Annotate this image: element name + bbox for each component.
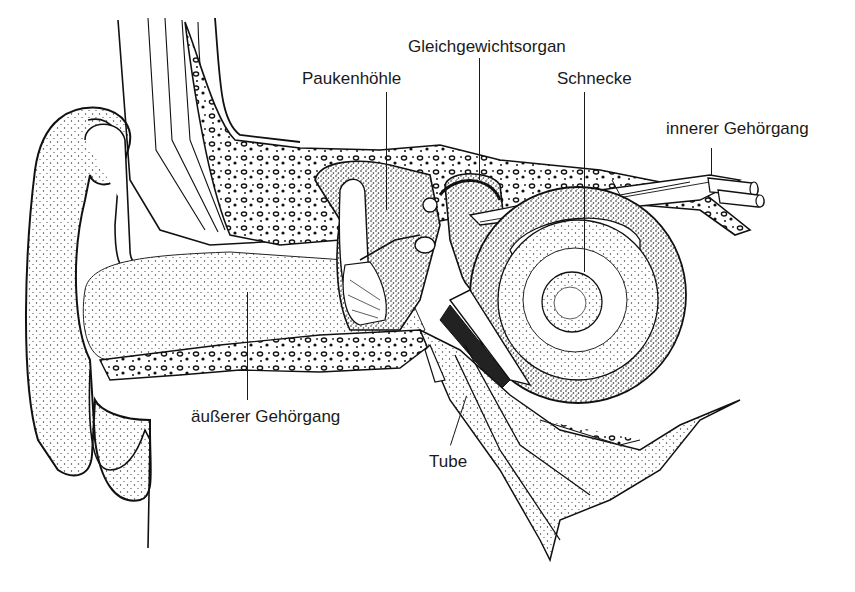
- label-paukenhoehle: Paukenhöhle: [302, 69, 401, 89]
- leader-line-aeusserer-gehoergang: [247, 292, 248, 400]
- leader-line-paukenhoehle: [386, 92, 387, 210]
- leader-line-schnecke: [584, 92, 585, 272]
- label-gleichgewichtsorgan: Gleichgewichtsorgan: [408, 37, 566, 57]
- ear-anatomy-drawing: [0, 0, 855, 592]
- label-schnecke: Schnecke: [557, 69, 632, 89]
- label-innerer-gehoergang: innerer Gehörgang: [666, 119, 809, 139]
- label-aeusserer-gehoergang: äußerer Gehörgang: [191, 407, 340, 427]
- leader-line-gleichgewichtsorgan: [479, 58, 480, 180]
- label-tube: Tube: [429, 452, 467, 472]
- leader-line-innerer-gehoergang: [711, 148, 712, 176]
